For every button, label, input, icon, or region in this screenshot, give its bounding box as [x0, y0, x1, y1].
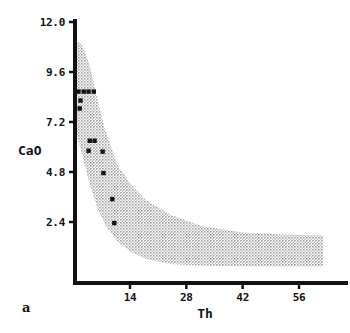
data-point	[86, 89, 90, 93]
y-tick-label-12.0: 12.0	[40, 16, 65, 29]
y-tick-label-9.6: 9.6	[46, 66, 66, 79]
x-tick-label-14: 14	[124, 291, 137, 304]
data-point	[78, 106, 82, 110]
x-tick-label-56: 56	[293, 291, 306, 304]
data-point	[92, 139, 96, 143]
y-axis-tick-labels: 2.44.87.29.612.0	[40, 16, 66, 229]
data-point	[82, 89, 86, 93]
data-point	[101, 171, 105, 175]
data-point	[78, 98, 82, 102]
figure-panel-a: 2.44.87.29.612.0 14284256 CaO Th a	[0, 0, 350, 333]
y-tick-label-2.4: 2.4	[46, 216, 66, 229]
y-tick-label-4.8: 4.8	[46, 166, 65, 179]
y-axis-title: CaO	[18, 143, 42, 158]
data-point	[88, 139, 92, 143]
panel-label: a	[22, 300, 31, 315]
x-axis-title: Th	[197, 306, 213, 321]
data-point	[112, 221, 116, 225]
data-point	[100, 149, 104, 153]
data-point	[86, 149, 90, 153]
data-point	[110, 197, 114, 201]
data-point	[92, 89, 96, 93]
x-tick-label-28: 28	[180, 291, 193, 304]
y-tick-label-7.2: 7.2	[46, 116, 65, 129]
data-band	[75, 41, 323, 267]
x-tick-label-42: 42	[236, 291, 249, 304]
x-axis-tick-labels: 14284256	[124, 291, 306, 304]
data-point	[76, 89, 80, 93]
scatter-plot: 2.44.87.29.612.0 14284256 CaO Th a	[0, 0, 350, 333]
